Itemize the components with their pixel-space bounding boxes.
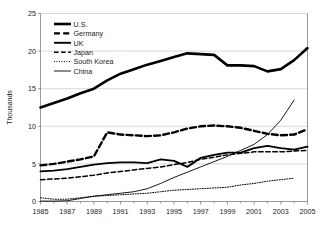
- x-axis-tick-labels: 1985198719891991199319951997199920012003…: [33, 207, 316, 216]
- legend-label: South Korea: [74, 57, 114, 66]
- legend-item-china: China: [54, 67, 92, 76]
- x-tick-label: 1999: [219, 207, 235, 216]
- legend-item-u-s: U.S.: [54, 20, 87, 29]
- x-tick-label: 1989: [86, 207, 102, 216]
- legend-label: Japan: [74, 48, 94, 57]
- x-tick-label: 1997: [193, 207, 209, 216]
- legend-item-japan: Japan: [54, 48, 93, 57]
- legend-label: Germany: [74, 29, 104, 38]
- y-axis-title-text: Thousands: [6, 90, 13, 125]
- chart-legend: U.S.GermanyUKJapanSouth KoreaChina: [54, 20, 113, 76]
- x-tick-label: 2003: [273, 207, 289, 216]
- x-tick-label: 1987: [59, 207, 75, 216]
- y-tick-label: 0: [32, 197, 36, 206]
- chart-container: 0510152025 19851987198919911993199519971…: [0, 0, 324, 226]
- legend-label: U.S.: [74, 20, 88, 29]
- x-tick-label: 1985: [33, 207, 49, 216]
- y-tick-label: 5: [32, 160, 36, 169]
- x-tick-label: 2001: [246, 207, 262, 216]
- line-chart: 0510152025 19851987198919911993199519971…: [0, 0, 324, 226]
- legend-label: UK: [74, 39, 84, 48]
- y-axis-title: Thousands: [6, 90, 13, 125]
- y-axis-tick-labels: 0510152025: [28, 9, 36, 206]
- legend-item-germany: Germany: [54, 29, 103, 38]
- x-tick-label: 1995: [166, 207, 182, 216]
- y-tick-label: 25: [28, 9, 36, 18]
- x-tick-label: 1993: [139, 207, 155, 216]
- series-line-japan: [41, 150, 308, 179]
- x-tick-label: 1991: [113, 207, 129, 216]
- y-tick-label: 10: [28, 122, 36, 131]
- y-tick-label: 15: [28, 84, 36, 93]
- x-tick-label: 2005: [300, 207, 316, 216]
- series-line-south-korea: [41, 178, 295, 199]
- legend-item-south-korea: South Korea: [54, 57, 113, 66]
- legend-label: China: [74, 67, 93, 76]
- y-tick-label: 20: [28, 47, 36, 56]
- legend-item-uk: UK: [54, 39, 84, 48]
- series-line-china: [41, 100, 295, 201]
